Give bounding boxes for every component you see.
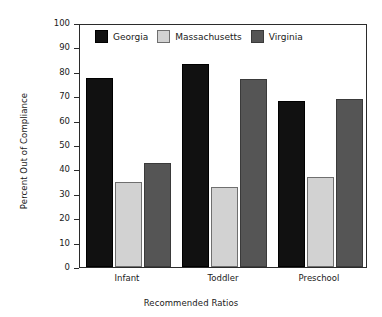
y-axis-tick-label: 80 <box>44 67 70 77</box>
y-axis-tick-label: 10 <box>44 238 70 248</box>
y-axis-tick-mark <box>74 122 79 123</box>
bar[interactable] <box>278 101 305 267</box>
bar[interactable] <box>144 163 171 267</box>
y-axis-tick-mark <box>74 244 79 245</box>
y-axis-tick-mark <box>74 268 79 269</box>
bar[interactable] <box>336 99 363 267</box>
bar-chart: Percent Out of Compliance 10090807060504… <box>0 0 382 317</box>
bar[interactable] <box>182 64 209 267</box>
legend-swatch <box>95 30 108 43</box>
bar-group <box>272 25 368 267</box>
legend-swatch <box>251 30 264 43</box>
bar[interactable] <box>86 78 113 267</box>
y-axis-tick-label: 90 <box>44 42 70 52</box>
y-axis-tick-label: 70 <box>44 91 70 101</box>
bar[interactable] <box>211 187 238 267</box>
legend-item[interactable]: Georgia <box>95 30 148 43</box>
legend-item[interactable]: Massachusetts <box>157 30 242 43</box>
y-axis-tick-mark <box>74 146 79 147</box>
x-axis-category-label: Infant <box>79 273 175 283</box>
bar[interactable] <box>115 182 142 267</box>
y-axis-tick-label: 50 <box>44 140 70 150</box>
bar-group <box>80 25 176 267</box>
y-axis-tick-mark <box>74 24 79 25</box>
y-axis-tick-label: 30 <box>44 189 70 199</box>
x-axis-category-label: Toddler <box>175 273 271 283</box>
legend-label: Massachusetts <box>175 32 242 42</box>
y-axis-tick-mark <box>74 73 79 74</box>
y-axis-tick-mark <box>74 97 79 98</box>
y-axis-tick-mark <box>74 219 79 220</box>
y-axis-tick-mark <box>74 195 79 196</box>
x-axis-category-label: Preschool <box>271 273 367 283</box>
y-axis-tick-label: 40 <box>44 164 70 174</box>
y-axis-tick-label: 20 <box>44 213 70 223</box>
x-axis-title: Recommended Ratios <box>0 298 382 308</box>
bar-group <box>176 25 272 267</box>
y-axis-tick-label: 0 <box>44 262 70 272</box>
y-axis-title: Percent Out of Compliance <box>19 41 29 261</box>
chart-legend: GeorgiaMassachusettsVirginia <box>95 30 303 43</box>
legend-label: Georgia <box>113 32 148 42</box>
y-axis-tick-label: 60 <box>44 116 70 126</box>
legend-item[interactable]: Virginia <box>251 30 303 43</box>
y-axis-tick-mark <box>74 170 79 171</box>
legend-label: Virginia <box>269 32 303 42</box>
y-axis-tick-label: 100 <box>44 18 70 28</box>
bars-layer <box>80 25 366 267</box>
bar[interactable] <box>307 177 334 267</box>
y-axis-tick-mark <box>74 48 79 49</box>
bar[interactable] <box>240 79 267 267</box>
legend-swatch <box>157 30 170 43</box>
